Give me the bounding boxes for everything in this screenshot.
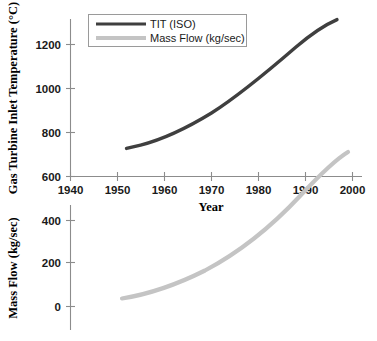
tit-ytick-label-1200: 1200 [35,39,61,51]
xtick-label-1940: 1940 [58,184,84,196]
legend-label-tit: TIT (ISO) [150,18,196,30]
tit-ytick-label-1000: 1000 [35,83,61,95]
mass-flow-y-axis-title: Mass Flow (kg/sec) [6,217,20,318]
legend: TIT (ISO) Mass Flow (kg/sec) [89,15,247,47]
tit-ytick-label-600: 600 [42,171,61,183]
mass-flow-ytick-label-400: 400 [42,215,61,227]
figure-container: 1200 1000 800 600 1940 1950 1960 1970 19… [0,0,377,341]
xtick-label-1960: 1960 [152,184,178,196]
mass-flow-ytick-label-0: 0 [55,301,61,313]
legend-label-mass-flow: Mass Flow (kg/sec) [150,32,245,44]
x-axis-title: Year [199,200,224,214]
mass-flow-series-line [122,152,348,299]
xtick-label-2000: 2000 [340,184,366,196]
tit-ytick-label-800: 800 [42,127,61,139]
xtick-label-1970: 1970 [199,184,225,196]
tit-y-axis-title: Gas Turbine Inlet Temperature (°C) [6,2,20,194]
xtick-label-1980: 1980 [246,184,272,196]
mass-flow-ytick-label-200: 200 [42,257,61,269]
xtick-label-1950: 1950 [105,184,131,196]
chart-svg: 1200 1000 800 600 1940 1950 1960 1970 19… [0,0,377,341]
